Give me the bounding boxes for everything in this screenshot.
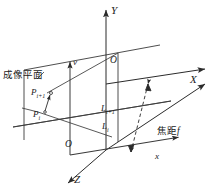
axis-label-x-image: x (155, 152, 159, 161)
origin-label-image: O (65, 140, 72, 150)
focal-length-text: 焦距 (157, 125, 177, 136)
axis-X-line (106, 84, 205, 150)
axis-label-Y: Y (111, 5, 117, 16)
point-upper-dot (50, 92, 53, 95)
ray-upper-subscript: i+1 (106, 109, 115, 115)
point-upper-subscript: i+1 (37, 93, 46, 99)
world-axes (68, 10, 205, 183)
point-displacement-arrow (45, 95, 50, 111)
axis-x-line (70, 137, 179, 155)
axis-label-Z: Z (74, 174, 80, 185)
ray-label-upper: Li+1 (101, 104, 115, 115)
axis-label-v-image: v (73, 58, 77, 67)
point-lower-subscript: i (39, 115, 41, 121)
imaging-plane-label: 成像平面 (3, 70, 43, 80)
origin-label-world-upper: O (110, 56, 117, 66)
point-lower-dot (44, 111, 47, 114)
focal-length-dimension (131, 84, 148, 152)
ray-L-lower (38, 112, 112, 137)
point-label-upper: Pi+1 (31, 88, 45, 99)
focal-length-symbol: f (177, 126, 180, 136)
point-label-lower: Pi (33, 110, 40, 121)
axis-label-X: X (190, 74, 197, 85)
ray-lower-subscript: i (107, 127, 109, 133)
ray-label-lower: Li (102, 122, 109, 133)
figure-canvas: Y X Z x v O O Pi+1 Pi Li+1 Li 成像平面 焦距f (0, 0, 215, 192)
focal-length-label: 焦距f (157, 126, 180, 137)
